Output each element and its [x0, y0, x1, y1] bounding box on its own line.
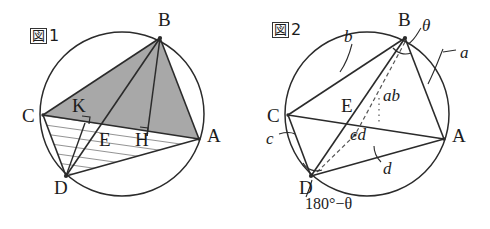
figure2-product-label-ab: ab — [383, 87, 400, 104]
figure2-tag-number: 2 — [291, 20, 301, 39]
figure2-tag: 図2 — [272, 22, 301, 38]
arc-marker-d — [374, 146, 381, 162]
figure2-label-e: E — [341, 96, 353, 115]
figure2-arc-label-c: c — [266, 130, 274, 147]
figure2-label-c: C — [267, 106, 280, 125]
figure1-label-a: A — [207, 126, 221, 145]
vertex-dot-c — [41, 113, 44, 116]
arc-leader-a — [443, 50, 456, 52]
segment2-bd — [311, 38, 405, 176]
figure2-label-b: B — [398, 10, 411, 29]
figure1-label-h: H — [135, 130, 149, 149]
figure2-arc-label-b: b — [344, 28, 353, 45]
vertex2-dot-b — [403, 36, 407, 40]
figure1-label-c: C — [22, 106, 35, 125]
arc-marker-b — [340, 44, 352, 72]
figure1-tag-kanji: 図 — [30, 28, 47, 44]
vertex-dot-a — [197, 137, 200, 140]
theta-leader — [408, 28, 421, 44]
figure1-tag: 図1 — [30, 28, 59, 44]
figure1-label-k: K — [72, 96, 86, 115]
figure1-label-e: E — [99, 130, 111, 149]
figure2-tag-kanji: 図 — [272, 22, 289, 38]
figure1-group — [40, 32, 204, 196]
figure1-label-d: D — [54, 178, 68, 197]
figure1-label-b: B — [158, 10, 171, 29]
figure2-group — [279, 28, 456, 197]
angle-arc-theta — [393, 48, 411, 54]
vertex2-dot-a — [442, 137, 445, 140]
figure2-angle-label-theta: θ — [422, 17, 430, 34]
vertex-dot-b — [158, 36, 162, 40]
figure1-tag-number: 1 — [49, 26, 59, 45]
figure2-arc-label-d: d — [383, 160, 392, 177]
figure2-arc-label-a: a — [460, 44, 469, 61]
figure2-angle-label-supplement: 180°−θ — [305, 196, 352, 212]
figure2-product-label-cd: cd — [350, 126, 366, 143]
figure2-label-a: A — [452, 126, 466, 145]
figure-pair-canvas: 図1 B C A D K E H 図2 B C A D E a b c d ab… — [0, 0, 490, 229]
vertex2-dot-c — [286, 113, 289, 116]
